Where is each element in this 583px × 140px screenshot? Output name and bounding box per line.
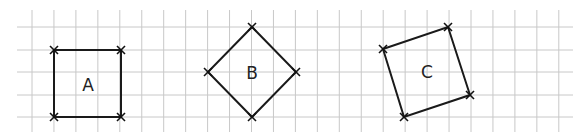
grid-diagram: ABC	[0, 0, 583, 140]
shape-a: A	[50, 46, 125, 121]
shape-label: B	[246, 63, 258, 83]
shape-label: C	[421, 62, 433, 82]
shape-label: A	[82, 75, 94, 95]
diagram-canvas: ABC	[0, 0, 583, 140]
